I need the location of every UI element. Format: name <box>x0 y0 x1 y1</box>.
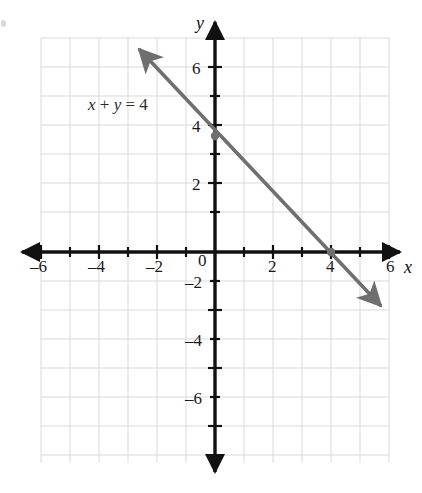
y-tick-label-4: 4 <box>192 118 201 135</box>
y-tick-label-6: 6 <box>192 60 201 77</box>
x-tick-label-neg6: –6 <box>30 258 47 275</box>
equation-constant: 4 <box>139 95 148 114</box>
y-tick-label-neg4: –4 <box>185 332 202 349</box>
x-tick-label-6: 6 <box>386 258 395 275</box>
y-intercept-point <box>211 132 219 140</box>
y-tick-label-2: 2 <box>192 176 201 193</box>
x-axis-label: x <box>404 258 412 276</box>
y-tick-label-neg2: –2 <box>185 274 202 291</box>
x-tick-label-2: 2 <box>268 258 277 275</box>
x-tick-label-0: 0 <box>198 252 207 269</box>
x-tick-label-neg2: –2 <box>146 258 163 275</box>
y-axis-label: y <box>196 14 204 32</box>
equation-annotation: x + y = 4 <box>88 96 148 113</box>
equation-term-y: y <box>114 95 122 114</box>
equation-equals-sign: = <box>125 95 135 114</box>
equation-term-x: x <box>88 95 96 114</box>
equation-line <box>139 49 381 306</box>
x-intercept-point <box>327 248 335 256</box>
x-tick-label-4: 4 <box>326 258 335 275</box>
x-tick-label-neg4: –4 <box>88 258 105 275</box>
coordinate-plane-svg <box>0 0 422 493</box>
equation-plus-sign: + <box>100 95 110 114</box>
graph-screenshot: –6 –4 –2 0 2 4 6 6 4 2 –2 –4 –6 y x x + … <box>0 0 422 493</box>
y-tick-label-neg6: –6 <box>185 390 202 407</box>
